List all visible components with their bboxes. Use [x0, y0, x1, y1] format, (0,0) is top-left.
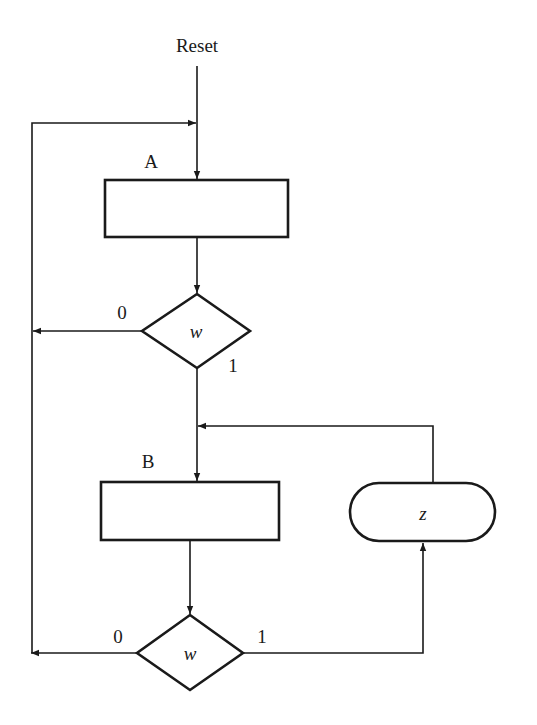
- decision2-false-label: 0: [113, 626, 123, 647]
- asm-chart: Reset A w 0 1 B w 0 1 z: [0, 0, 537, 725]
- state-a-label: A: [144, 151, 158, 172]
- return-to-a-arrow: [32, 123, 196, 653]
- decision-w-1-condition: w: [190, 321, 203, 342]
- reset-label: Reset: [176, 35, 219, 56]
- decision1-false-label: 0: [117, 302, 127, 323]
- decision-w-2-condition: w: [184, 643, 197, 664]
- conditional-output-z-label: z: [418, 503, 427, 524]
- decision1-true-label: 1: [228, 355, 238, 376]
- state-a-box: [105, 180, 288, 237]
- state-b-box: [101, 482, 279, 540]
- decision2-true-arrow: [243, 543, 423, 653]
- decision2-true-label: 1: [257, 626, 267, 647]
- z-to-b-arrow: [198, 426, 433, 483]
- state-b-label: B: [142, 451, 155, 472]
